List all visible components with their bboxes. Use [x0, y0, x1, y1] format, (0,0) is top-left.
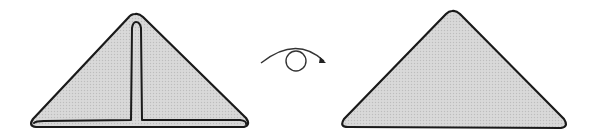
- folded-triangle-before: [31, 14, 248, 127]
- plain-triangle-after: [342, 11, 566, 128]
- turn-over-icon: [261, 48, 326, 71]
- origami-diagram: [0, 0, 593, 131]
